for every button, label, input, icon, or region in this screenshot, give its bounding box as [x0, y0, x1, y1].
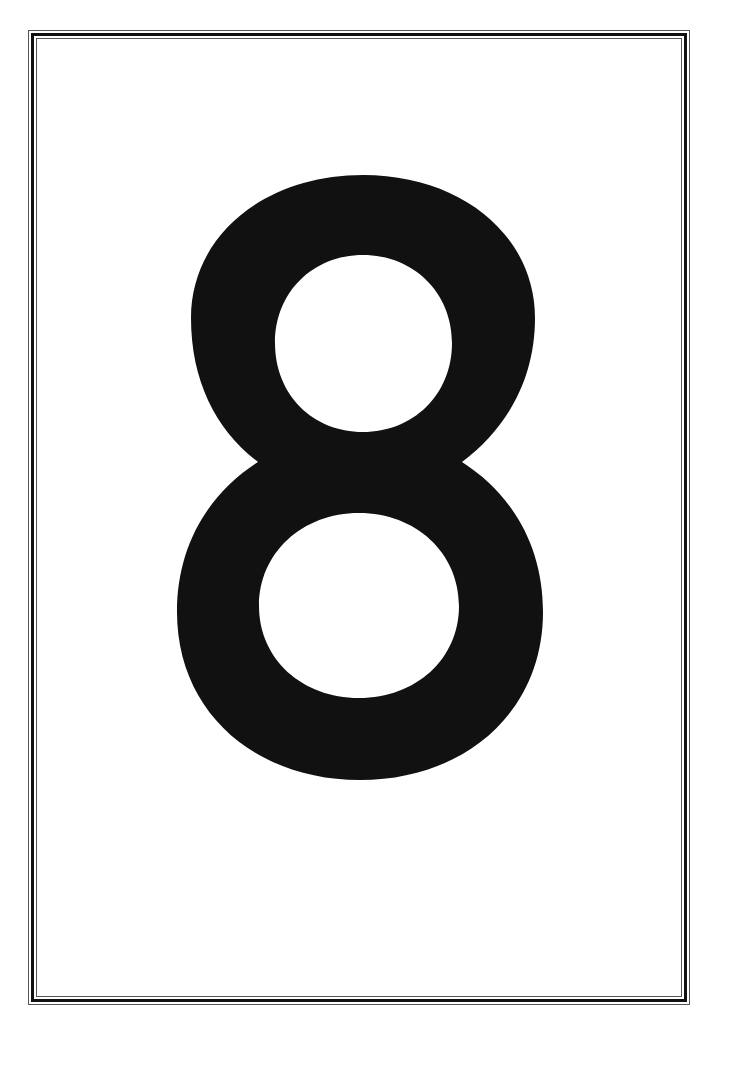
numeral-eight: 8 [0, 0, 729, 1065]
